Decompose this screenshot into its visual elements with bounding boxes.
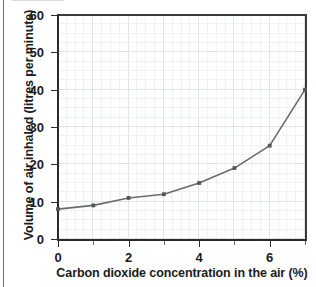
data-point-marker [268, 144, 272, 148]
data-point-marker [303, 88, 307, 92]
series-markers [56, 88, 307, 211]
data-point-marker [197, 181, 201, 185]
line-chart-figure: Volume of air inhaled (litres per minute… [0, 0, 316, 287]
data-point-marker [127, 196, 131, 200]
data-point-marker [56, 207, 60, 211]
data-point-marker [91, 204, 95, 208]
data-point-marker [162, 192, 166, 196]
data-point-marker [233, 166, 237, 170]
series-layer [0, 0, 316, 287]
series-line [58, 90, 305, 209]
